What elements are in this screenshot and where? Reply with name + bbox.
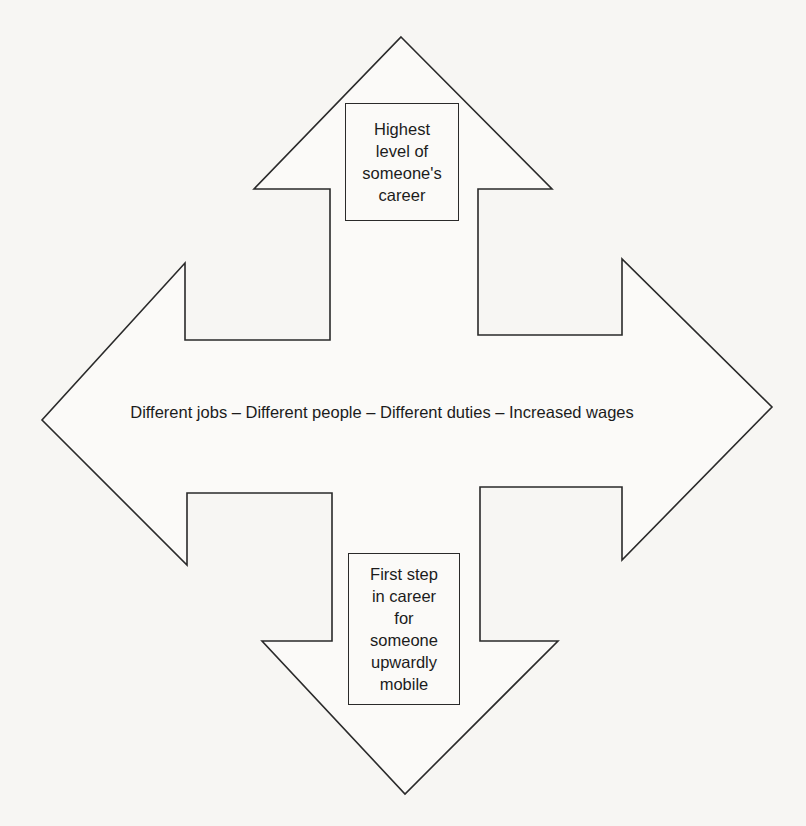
horizontal-arrow-label: Different jobs – Different people – Diff… [82, 403, 682, 422]
top-arrow-label-box: Highest level of someone's career [345, 103, 459, 221]
bottom-arrow-label-box: First step in career for someone upwardl… [348, 553, 460, 705]
top-arrow-label: Highest level of someone's career [362, 118, 441, 206]
diagram-page: Highest level of someone's career Differ… [0, 0, 806, 826]
bottom-arrow-label: First step in career for someone upwardl… [370, 563, 438, 695]
